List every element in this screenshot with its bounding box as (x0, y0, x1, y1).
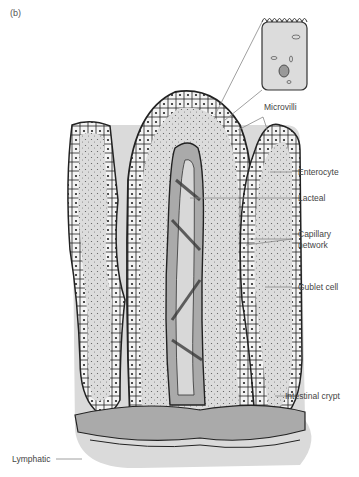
label-enterocyte: Enterocyte (298, 167, 339, 177)
enterocyte-inset (262, 19, 307, 91)
label-goblet-cell: Gublet cell (298, 282, 338, 292)
label-capillary-line2: network (298, 240, 328, 250)
villus-diagram: (b) Microvilli Enterocyte Lacteal Capill… (0, 0, 359, 477)
label-capillary-line1: Capillary (298, 229, 331, 239)
lymphatic-vessel (75, 405, 305, 440)
label-intestinal-crypt: Intestinal crypt (285, 391, 340, 401)
label-lacteal: Lacteal (298, 193, 325, 203)
panel-label: (b) (10, 8, 21, 18)
label-microvilli: Microvilli (264, 102, 297, 112)
label-lymphatic: Lymphatic (12, 454, 50, 464)
